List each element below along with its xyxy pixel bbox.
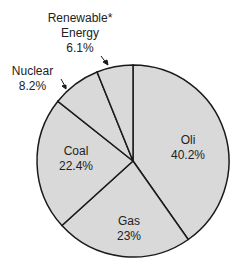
- nuclear-label: Nuclear 8.2%: [10, 64, 55, 94]
- nuclear-arrowhead: [62, 85, 66, 89]
- gas-label: Gas 23%: [109, 214, 149, 244]
- nuclear-pct: 8.2%: [10, 79, 55, 94]
- coal-pct: 22.4%: [56, 159, 96, 174]
- coal-label: Coal 22.4%: [56, 144, 96, 174]
- oil-pct: 40.2%: [168, 148, 208, 163]
- renewable-pct: 6.1%: [45, 41, 115, 56]
- renewable-name-line2: Energy: [45, 26, 115, 41]
- gas-pct: 23%: [109, 229, 149, 244]
- nuclear-name: Nuclear: [10, 64, 55, 79]
- gas-name: Gas: [109, 214, 149, 229]
- renewable-name-line1: Renewable*: [45, 11, 115, 26]
- renewable-arrowhead: [103, 60, 108, 65]
- oil-label: Oli 40.2%: [168, 133, 208, 163]
- oil-name: Oli: [168, 133, 208, 148]
- renewable-label: Renewable* Energy 6.1%: [45, 11, 115, 56]
- coal-name: Coal: [56, 144, 96, 159]
